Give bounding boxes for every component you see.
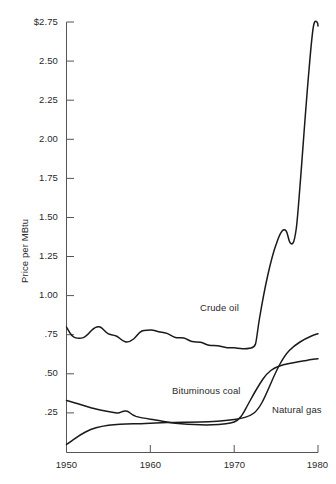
y-axis-ticks [67,22,75,413]
y-tick-label-1-50: 1.50 [6,211,58,222]
y-tick-label-1-00: 1.00 [6,289,58,300]
y-tick-label-0-50: .50 [6,367,58,378]
x-axis-ticks [67,445,319,453]
x-tick-label-1980: 1980 [295,459,336,470]
y-tick-label-1-75: 1.75 [6,172,58,183]
series-line-crude-oil [67,21,319,349]
chart-container: $2.75 2.50 2.25 2.00 1.75 1.50 1.25 1.00… [0,0,336,484]
y-tick-label-2-25: 2.25 [6,94,58,105]
y-tick-label-2-75: $2.75 [6,16,58,27]
y-axis-title: Price per MBtu [19,219,30,283]
x-tick-label-1970: 1970 [212,459,257,470]
y-tick-label-0-75: .75 [6,328,58,339]
x-tick-label-1950: 1950 [44,459,89,470]
y-tick-label-1-25: 1.25 [6,250,58,261]
series-label-natural-gas-text: Natural gas [272,404,322,415]
series-lines [67,21,319,444]
series-label-bituminous-coal: Bituminous coal [172,385,241,396]
x-tick-label-1960: 1960 [128,459,173,470]
y-tick-label-2-00: 2.00 [6,133,58,144]
series-label-crude-oil: Crude oil [200,302,239,313]
y-tick-label-2-50: 2.50 [6,55,58,66]
y-tick-label-0-25: .25 [6,406,58,417]
series-label-natural-gas: Natural gas [272,404,320,417]
